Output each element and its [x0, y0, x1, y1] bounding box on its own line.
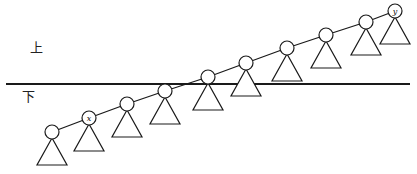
subtree-triangle [150, 97, 180, 124]
tree-path-diagram: 上 下 xy [0, 0, 417, 174]
node-circle [201, 70, 215, 84]
tree-node: x [74, 111, 104, 151]
lower-region-label: 下 [22, 89, 35, 104]
node-circle [239, 56, 253, 70]
node-circle [120, 97, 134, 111]
tree-node [272, 41, 302, 81]
subtree-triangle [37, 138, 67, 165]
node-circle [280, 41, 294, 55]
tree-node [311, 28, 341, 68]
subtree-triangle [311, 41, 341, 68]
tree-node [112, 97, 142, 137]
spine-edge [52, 11, 395, 132]
subtree-triangle [231, 69, 261, 96]
tree-node [193, 70, 223, 110]
tree-node [150, 84, 180, 124]
tree-node: y [380, 4, 410, 44]
tree-node [37, 125, 67, 165]
node-circle [45, 125, 59, 139]
subtree-triangle [272, 54, 302, 81]
tree-node [351, 15, 381, 55]
node-label-x: x [87, 114, 92, 123]
subtree-triangle [193, 83, 223, 110]
spine-path [52, 11, 395, 132]
upper-region-label: 上 [30, 40, 43, 55]
node-circle [359, 15, 373, 29]
tree-node [231, 56, 261, 96]
node-label-y: y [392, 7, 398, 16]
subtree-triangle [380, 17, 410, 44]
node-circle [158, 84, 172, 98]
subtree-triangle [351, 28, 381, 55]
node-circle [319, 28, 333, 42]
subtree-triangle [112, 110, 142, 137]
subtree-triangle [74, 124, 104, 151]
